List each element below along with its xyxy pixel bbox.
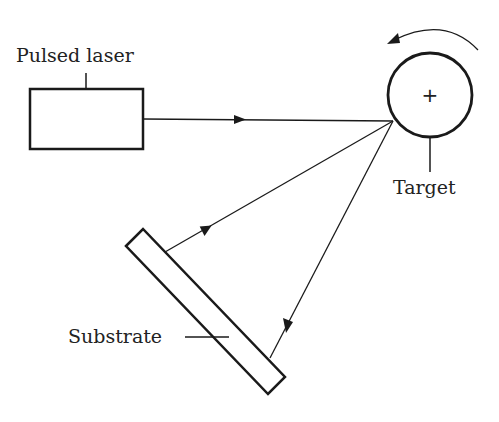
- rotation-arrow-icon: [387, 30, 478, 50]
- laser-beam-arrow-icon: [234, 115, 246, 124]
- pld-diagram: Pulsed laser + Target Substrate: [0, 0, 499, 422]
- substrate-plate: [126, 229, 285, 394]
- laser-box: [30, 89, 143, 149]
- target-label: Target: [393, 176, 456, 198]
- laser-label: Pulsed laser: [16, 44, 135, 66]
- target-center-plus: +: [422, 83, 439, 107]
- laser-beam: [143, 119, 393, 121]
- substrate-label: Substrate: [68, 325, 162, 347]
